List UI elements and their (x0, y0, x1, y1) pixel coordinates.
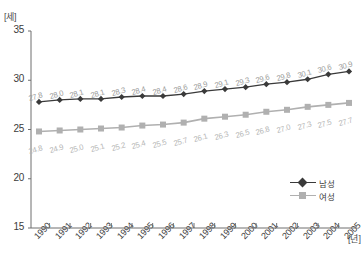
data-point-marker-여성 (284, 107, 290, 113)
chart-legend: 남성 여성 (290, 176, 335, 202)
data-point-marker-여성 (201, 116, 207, 122)
legend-swatch-male (290, 178, 316, 188)
legend-swatch-female (290, 191, 316, 201)
data-point-marker-여성 (243, 112, 249, 118)
data-point-marker-여성 (181, 120, 187, 126)
chart-container: [세] [년] 3530252015 199019911992199319941… (0, 0, 363, 262)
data-point-marker-여성 (139, 123, 145, 129)
data-point-marker-여성 (119, 125, 125, 131)
data-point-marker-여성 (98, 126, 104, 132)
data-point-marker-여성 (346, 100, 352, 106)
data-point-marker-여성 (222, 114, 228, 120)
data-point-marker-여성 (325, 102, 331, 108)
data-point-marker-여성 (160, 122, 166, 128)
legend-label-female: 여성 (316, 190, 335, 202)
legend-label-male: 남성 (316, 177, 335, 189)
plot-area (0, 0, 363, 262)
data-point-marker-여성 (36, 128, 42, 134)
data-point-marker-여성 (305, 104, 311, 110)
data-point-marker-여성 (57, 127, 63, 133)
data-point-marker-여성 (77, 127, 83, 133)
legend-item-male: 남성 (290, 176, 335, 189)
legend-item-female: 여성 (290, 189, 335, 202)
data-point-marker-여성 (263, 109, 269, 115)
